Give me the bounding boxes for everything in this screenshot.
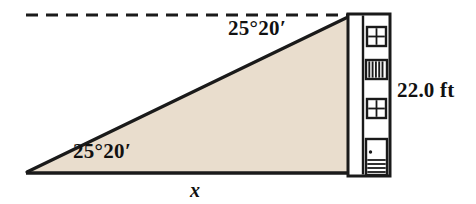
building-height-label: 22.0 ft [397,80,454,101]
angle-of-depression-label: 25°20′ [228,18,286,39]
building [348,14,390,176]
angle-of-elevation-label: 25°20′ [73,141,131,162]
window-lower-icon [367,99,386,118]
vent-louver-icon [366,60,387,79]
door-knob-icon [369,150,372,153]
door-icon [366,139,387,175]
door-frame [366,139,387,175]
geometry-figure: 25°20′ 25°20′ x 22.0 ft [0,0,476,204]
window-upper-icon [367,27,386,46]
base-length-variable-label: x [190,180,200,200]
